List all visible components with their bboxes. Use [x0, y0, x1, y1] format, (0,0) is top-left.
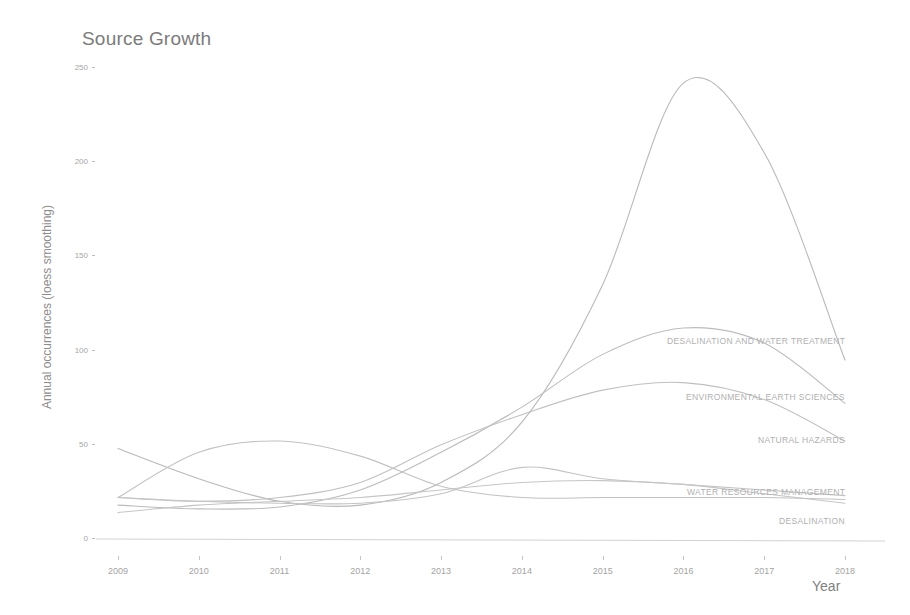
- series-label: ENVIRONMENTAL EARTH SCIENCES: [686, 392, 845, 402]
- series-label: WATER RESOURCES MANAGEMENT: [687, 487, 845, 497]
- x-axis-baseline: [96, 539, 885, 541]
- series-label: NATURAL HAZARDS: [758, 435, 845, 445]
- series-line[interactable]: [118, 77, 845, 506]
- series-line[interactable]: [118, 328, 845, 510]
- series-label: DESALINATION: [779, 516, 845, 526]
- chart-figure: Source Growth Annual occurrences (loess …: [0, 0, 910, 615]
- plot-area: [0, 0, 910, 615]
- series-label: DESALINATION AND WATER TREATMENT: [667, 336, 845, 346]
